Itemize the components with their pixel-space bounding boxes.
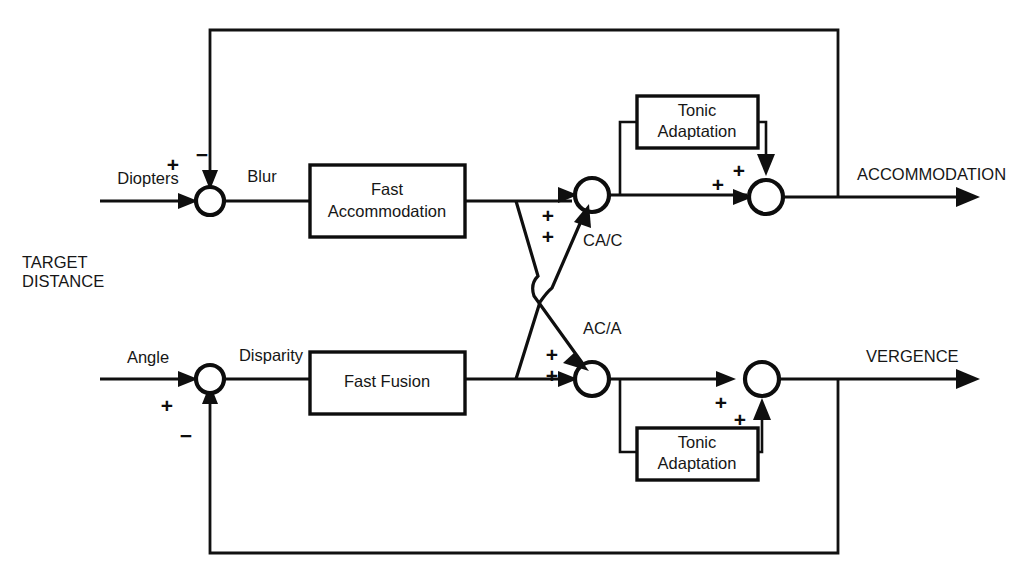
fast-accommodation-label-line2: Accommodation — [328, 202, 446, 220]
blur-label: Blur — [247, 167, 277, 185]
vergence-sum-plus-sign: + — [161, 394, 173, 417]
fast-accommodation-block — [310, 165, 465, 237]
disparity-label: Disparity — [239, 346, 304, 364]
accommodation-tonic-label-line1: Tonic — [678, 101, 717, 119]
cac-plus-sign-lower: + — [542, 225, 554, 248]
vergence-forward-path — [100, 352, 980, 414]
accommodation-tonic-sum-plus-upper: + — [733, 159, 745, 182]
vergence-tonic-sum-plus-lower: + — [734, 408, 746, 431]
vergence-output-arrowhead — [956, 369, 980, 389]
accommodation-sum-plus-sign: + — [167, 153, 179, 176]
vergence-summing-junction — [196, 365, 224, 393]
cac-plus-sign-upper: + — [542, 204, 554, 227]
target-distance-label-line2: DISTANCE — [22, 272, 104, 290]
target-distance-label-line1: TARGET — [22, 253, 88, 271]
vergence-tonic-arrowhead — [753, 398, 771, 420]
fast-fusion-label: Fast Fusion — [344, 372, 430, 390]
angle-label: Angle — [127, 348, 169, 366]
vergence-tonic-sum-plus-upper: + — [715, 391, 727, 414]
accommodation-output-label: ACCOMMODATION — [857, 165, 1006, 183]
accommodation-output-arrowhead — [956, 187, 980, 207]
aca-plus-sign-lower: + — [546, 364, 558, 387]
vergence-tonic-sum-arrowhead — [716, 371, 736, 387]
accommodation-summing-junction — [196, 187, 224, 215]
vergence-output-label: VERGENCE — [866, 347, 959, 365]
vergence-output-summing-junction — [745, 362, 779, 396]
accommodation-output-summing-junction — [749, 180, 783, 214]
aca-label: AC/A — [583, 319, 622, 337]
accommodation-tonic-arrowhead — [757, 154, 775, 176]
accommodation-tonic-sum-plus-lower: + — [712, 173, 724, 196]
vergence-sum-minus-sign: − — [180, 424, 192, 447]
accommodation-tonic-label-line2: Adaptation — [658, 122, 737, 140]
accommodation-forward-path — [100, 165, 980, 237]
aca-plus-sign-upper: + — [546, 343, 558, 366]
block-diagram-canvas: Fast Accommodation Fast Fusion Tonic Ada… — [0, 0, 1019, 566]
vergence-tonic-label-line2: Adaptation — [658, 454, 737, 472]
cac-summing-junction — [575, 178, 609, 212]
diagram-svg: Fast Accommodation Fast Fusion Tonic Ada… — [0, 0, 1019, 566]
fast-accommodation-label-line1: Fast — [371, 180, 404, 198]
accommodation-sum-minus-sign: − — [196, 143, 208, 166]
vergence-tonic-label-line1: Tonic — [678, 433, 717, 451]
cac-label: CA/C — [583, 231, 623, 249]
